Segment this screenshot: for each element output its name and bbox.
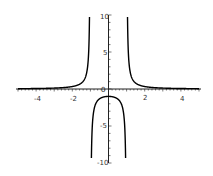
y-tick-label: -10 <box>97 159 108 167</box>
x-tick-label: 4 <box>180 95 185 103</box>
y-tick-label: 5 <box>103 49 107 57</box>
origin-label: 0 <box>101 86 105 94</box>
y-tick-label: -5 <box>100 122 107 130</box>
y-tick-label: 10 <box>100 13 109 21</box>
x-tick-label: 2 <box>143 94 147 102</box>
tick-labels: -4 -2 2 4 10 5 -5 -10 0 <box>34 13 185 167</box>
x-tick-label: -4 <box>34 95 42 103</box>
function-plot: -4 -2 2 4 10 5 -5 -10 0 <box>0 0 213 176</box>
x-tick-label: -2 <box>70 95 77 103</box>
